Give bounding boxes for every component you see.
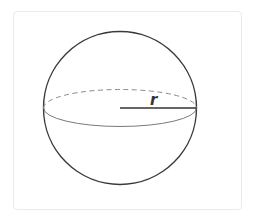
equator-back-dashed [44,90,197,108]
equator-front [44,108,197,127]
radius-label: r [150,91,159,109]
sphere-diagram: r [0,0,257,221]
